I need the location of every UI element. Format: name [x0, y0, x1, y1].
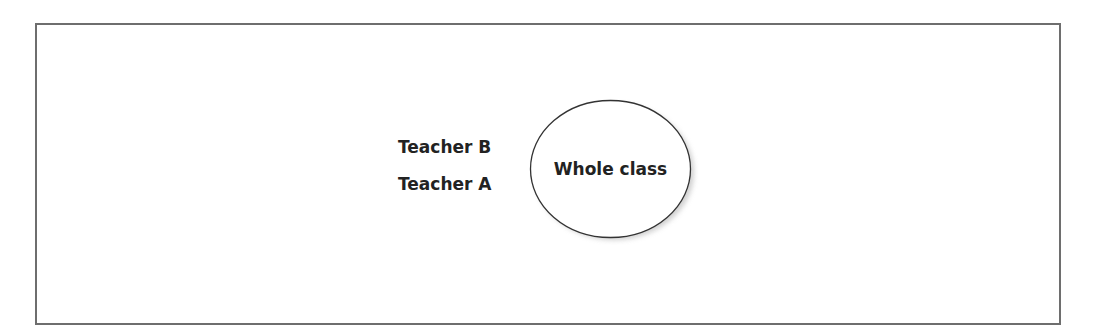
teacher-b-label: Teacher B [398, 137, 491, 157]
whole-class-node: Whole class [529, 99, 699, 245]
whole-class-label: Whole class [529, 99, 692, 239]
teacher-a-label: Teacher A [398, 174, 492, 194]
